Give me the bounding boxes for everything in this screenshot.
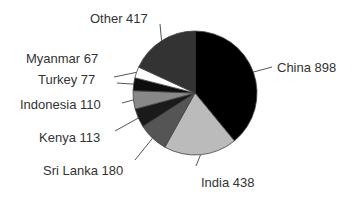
- label-china: China 898: [277, 60, 336, 75]
- label-sri-lanka: Sri Lanka 180: [43, 163, 123, 178]
- leader-line: [253, 67, 272, 72]
- leader-line: [115, 118, 138, 131]
- leader-line: [160, 24, 162, 41]
- pie-slices: [133, 31, 257, 155]
- leader-line: [196, 155, 201, 166]
- label-myanmar: Myanmar 67: [26, 51, 98, 66]
- label-kenya: Kenya 113: [39, 130, 100, 145]
- pie-chart: China 898 India 438 Sri Lanka 180 Kenya …: [0, 0, 360, 200]
- label-indonesia: Indonesia 110: [20, 97, 101, 112]
- label-india: India 438: [201, 175, 255, 190]
- leader-line: [135, 138, 153, 160]
- leader-line: [117, 83, 134, 84]
- label-other: Other 417: [90, 11, 148, 26]
- label-turkey: Turkey 77: [38, 72, 95, 87]
- leader-line: [114, 72, 137, 77]
- leader-line: [122, 100, 133, 103]
